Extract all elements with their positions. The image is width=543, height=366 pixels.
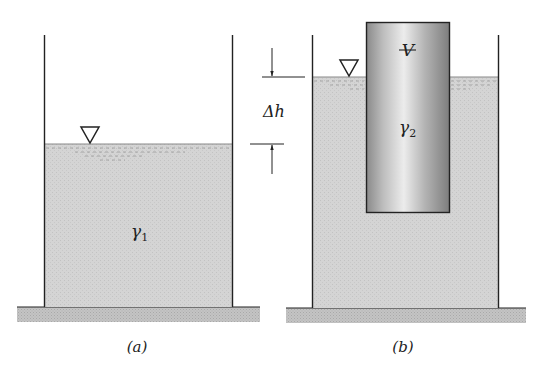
free-surface-triangle-icon xyxy=(81,127,99,143)
ground-b xyxy=(286,308,526,323)
free-surface-triangle-icon xyxy=(340,60,358,76)
caption-b: (b) xyxy=(392,338,413,356)
caption-a: (a) xyxy=(127,338,148,356)
panel-b: V γ2 (b) xyxy=(286,23,526,357)
panel-a: γ1 (a) xyxy=(17,35,260,356)
delta-h-dimension: Δh xyxy=(250,48,305,174)
delta-h-label: Δh xyxy=(262,102,285,121)
ground-a xyxy=(17,307,260,322)
buoyancy-diagram: γ1 (a) Δh V γ2 (b) xyxy=(0,0,543,366)
